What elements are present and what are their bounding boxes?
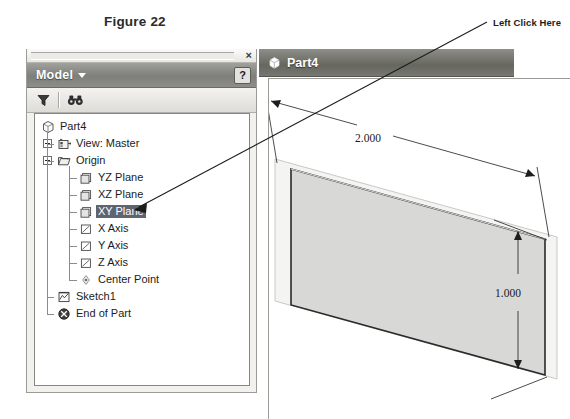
figure-caption: Figure 22 — [104, 14, 166, 29]
model-panel-title: Model — [36, 68, 73, 82]
tree-item-yz-plane[interactable]: YZ Plane — [35, 169, 249, 186]
tree-item-label: XZ Plane — [96, 188, 145, 201]
model-panel-titlebar: Model ? — [27, 63, 256, 88]
tree-connector-stub — [47, 144, 54, 145]
tree-connector-stub — [47, 161, 54, 162]
sketch-icon — [57, 290, 72, 304]
tree-item-xy-plane[interactable]: XY Plane — [35, 203, 249, 220]
plane-icon — [79, 171, 94, 185]
tree-item-label: Center Point — [96, 273, 161, 286]
tree-item-center-point[interactable]: Center Point — [35, 271, 249, 288]
tree-item-sketch1[interactable]: Sketch1 — [35, 288, 249, 305]
tree-item-label: View: Master — [74, 137, 141, 150]
tree-item-label: Sketch1 — [74, 290, 118, 303]
cad-drawing: 2.000 1.000 — [269, 79, 570, 419]
plane-icon — [79, 205, 94, 219]
tree-connector-stub — [69, 229, 77, 230]
axis-icon — [79, 222, 94, 236]
document-window: Part4 2.000 — [259, 49, 570, 419]
width-dimension-value: 2.000 — [355, 132, 381, 144]
tree-item-z-axis[interactable]: Z Axis — [35, 254, 249, 271]
document-tab-title: Part4 — [287, 56, 318, 70]
tree-item-y-axis[interactable]: Y Axis — [35, 237, 249, 254]
model-tree[interactable]: Part4View: MasterOriginYZ PlaneXZ PlaneX… — [34, 113, 250, 386]
cad-viewport[interactable]: 2.000 1.000 — [268, 78, 570, 419]
filter-icon[interactable] — [32, 90, 54, 110]
tree-connector-stub — [69, 195, 77, 196]
tree-item-xz-plane[interactable]: XZ Plane — [35, 186, 249, 203]
close-icon[interactable]: × — [246, 48, 252, 62]
tree-item-part4[interactable]: Part4 — [35, 118, 249, 135]
tree-item-label: YZ Plane — [96, 171, 145, 184]
tree-connector-stub — [69, 263, 77, 264]
model-tree-list: Part4View: MasterOriginYZ PlaneXZ PlaneX… — [35, 114, 249, 322]
panel-drag-grip[interactable] — [31, 52, 234, 60]
find-icon[interactable] — [64, 90, 86, 110]
tree-item-origin[interactable]: Origin — [35, 152, 249, 169]
find-icon-glyph — [67, 93, 84, 108]
axis-icon — [79, 239, 94, 253]
tree-item-x-axis[interactable]: X Axis — [35, 220, 249, 237]
model-browser-panel: × Model ? Part4View: MasterOriginYZ P — [26, 49, 257, 393]
tree-item-view-master[interactable]: View: Master — [35, 135, 249, 152]
toolbar-separator — [58, 92, 60, 108]
tree-connector-stub — [69, 212, 77, 213]
tree-item-label: Y Axis — [96, 239, 130, 252]
part-cube-icon — [41, 120, 56, 134]
document-titlebar[interactable]: Part4 — [259, 49, 514, 77]
help-icon[interactable]: ? — [234, 67, 251, 84]
tree-item-label: Origin — [74, 154, 107, 167]
tree-connector-stub — [47, 314, 54, 315]
model-panel-toolbar — [27, 88, 256, 113]
axis-icon — [79, 256, 94, 270]
center-point-icon — [79, 273, 94, 287]
end-of-part-icon — [57, 307, 72, 321]
tree-item-end-of-part[interactable]: End of Part — [35, 305, 249, 322]
chevron-down-icon[interactable] — [78, 73, 86, 78]
part-cube-icon — [267, 56, 281, 70]
tree-connector-stub — [69, 246, 77, 247]
tree-item-label: Z Axis — [96, 256, 130, 269]
tree-item-label: X Axis — [96, 222, 131, 235]
panel-grip-strip: × — [27, 49, 256, 63]
height-dimension-value: 1.000 — [495, 287, 521, 299]
filter-icon-glyph — [36, 93, 51, 108]
plane-icon — [79, 188, 94, 202]
callout-label: Left Click Here — [493, 17, 561, 28]
tree-item-label: End of Part — [74, 307, 133, 320]
tree-connector-stub — [69, 280, 77, 281]
view-icon — [57, 137, 72, 151]
tree-item-label: Part4 — [58, 120, 88, 133]
tree-connector-stub — [69, 178, 77, 179]
tree-item-label: XY Plane — [96, 205, 146, 218]
tree-connector-trunk — [47, 132, 48, 314]
tree-connector-stub — [47, 297, 54, 298]
